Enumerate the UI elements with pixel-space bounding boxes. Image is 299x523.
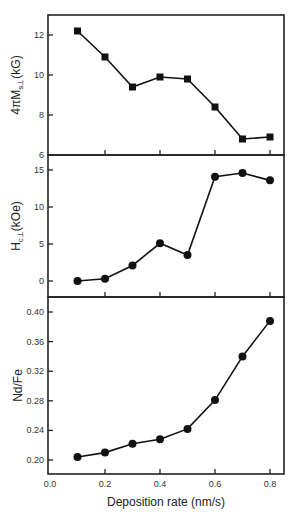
data-point	[101, 449, 109, 457]
data-point	[184, 76, 191, 83]
data-point	[129, 84, 136, 91]
x-tick-label: 0.8	[264, 479, 277, 489]
y-tick-label: 0	[39, 276, 44, 286]
x-tick-label: 0.0	[44, 479, 57, 489]
data-point	[239, 169, 247, 177]
y-tick-label: 8	[39, 110, 44, 120]
data-point	[211, 396, 219, 404]
data-point	[239, 136, 246, 143]
plot-frame	[48, 297, 284, 474]
y-tick-label: 0.36	[26, 337, 44, 347]
y-axis-label: Hc⊥(kOe)	[9, 201, 25, 251]
data-point	[184, 251, 192, 259]
panel-3: 0.200.240.280.320.360.40Nd/Fe0.00.20.40.…	[11, 297, 284, 509]
series-line	[78, 321, 271, 457]
y-tick-label: 0.40	[26, 307, 44, 317]
data-point	[211, 173, 219, 181]
y-tick-label: 15	[34, 165, 44, 175]
plot-frame	[48, 155, 284, 297]
y-axis-label: Nd/Fe	[11, 369, 25, 402]
data-point	[157, 74, 164, 81]
data-point	[74, 28, 81, 35]
x-axis-label: Deposition rate (nm/s)	[107, 495, 225, 509]
panel-1: 6810124πMs⊥(kG)	[9, 15, 284, 160]
data-point	[156, 435, 164, 443]
data-point	[184, 425, 192, 433]
data-point	[212, 104, 219, 111]
data-point	[267, 134, 274, 141]
data-point	[266, 176, 274, 184]
y-tick-label: 0.28	[26, 396, 44, 406]
y-tick-label: 0.24	[26, 425, 44, 435]
x-tick-label: 0.4	[154, 479, 167, 489]
stacked-chart: 6810124πMs⊥(kG)051015Hc⊥(kOe)0.200.240.2…	[0, 0, 299, 523]
panel-2: 051015Hc⊥(kOe)	[9, 155, 284, 297]
y-tick-label: 6	[39, 150, 44, 160]
y-tick-label: 10	[34, 202, 44, 212]
data-point	[156, 239, 164, 247]
data-point	[239, 352, 247, 360]
data-point	[129, 440, 137, 448]
y-tick-label: 10	[34, 70, 44, 80]
x-tick-label: 0.6	[209, 479, 222, 489]
data-point	[74, 453, 82, 461]
data-point	[102, 54, 109, 61]
data-point	[74, 277, 82, 285]
data-point	[129, 261, 137, 269]
x-tick-label: 0.2	[99, 479, 112, 489]
y-tick-label: 0.20	[26, 455, 44, 465]
y-tick-label: 5	[39, 239, 44, 249]
series-line	[78, 173, 271, 281]
series-line	[78, 31, 271, 139]
data-point	[101, 275, 109, 283]
y-tick-label: 12	[34, 30, 44, 40]
y-axis-label: 4πMs⊥(kG)	[9, 55, 25, 114]
y-tick-label: 0.32	[26, 366, 44, 376]
data-point	[266, 317, 274, 325]
